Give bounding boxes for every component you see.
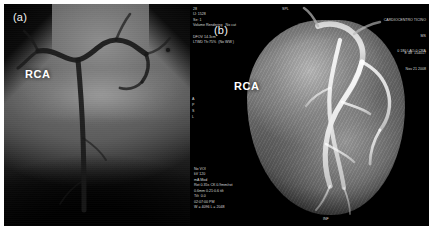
panel-b-caption: (b) <box>214 24 228 36</box>
ct-overlay-institution-block: CARDIOCENTRO TICINO MS E 48 154017 Nov 2… <box>384 7 426 83</box>
ct-overlay-orientation-left: A P S L <box>192 96 194 120</box>
ct-overlay-spl-marker: SPL <box>282 7 289 12</box>
medical-imaging-figure: (a) RCA <box>0 0 433 230</box>
panel-a-rca-label: RCA <box>25 68 51 80</box>
ct-institution-name: CARDIOCENTRO TICINO <box>384 18 426 23</box>
ct-overlay-fov-info: DFOV 14.3cm LTWD Th:75% (No WW ) <box>193 35 234 46</box>
panel-a-caption: (a) <box>13 11 27 23</box>
panel-b-ct-volume-rendering: 28 IJ: 1528 Se: 1 Volume Rendering No cu… <box>190 4 429 226</box>
ct-overlay-scan-parameters: No VOI kV 120 mA Mod Rot 0.35s CK 0.9mm/… <box>194 167 233 211</box>
ct-overlay-inferior-marker: INF <box>323 217 329 222</box>
panel-b-rca-label: RCA <box>234 80 260 92</box>
angiogram-noise <box>4 4 190 226</box>
ct-institution-sub: MS <box>384 34 426 39</box>
ct-overlay-orientation-right: 0 180 LAO 0 CRA <box>397 49 426 54</box>
ct-study-date: Nov 21 2008 <box>384 67 426 72</box>
panel-a-angiogram: (a) RCA <box>4 4 190 226</box>
